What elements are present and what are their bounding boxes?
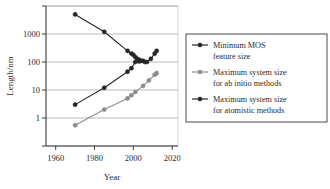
- data-point: [129, 66, 133, 70]
- legend-marker-dot: [198, 43, 203, 48]
- data-point: [147, 78, 151, 82]
- y-tick-label: 10: [32, 85, 41, 95]
- data-point: [141, 59, 145, 63]
- legend-marker-dot: [198, 97, 203, 102]
- data-point: [129, 93, 133, 97]
- data-point: [125, 70, 129, 74]
- data-point: [73, 123, 77, 127]
- data-point: [133, 60, 137, 64]
- x-tick-label: 2020: [164, 153, 181, 163]
- x-tick-label: 2000: [125, 153, 142, 163]
- x-axis: 1960198020002020: [46, 146, 181, 163]
- data-point: [102, 30, 106, 34]
- y-axis: 1101001000: [23, 6, 46, 146]
- data-point: [145, 60, 149, 64]
- x-tick-label: 1960: [47, 153, 64, 163]
- data-point: [133, 90, 137, 94]
- x-axis-title: Year: [104, 172, 121, 182]
- legend-label-line2: feature size: [213, 52, 251, 61]
- data-point: [125, 96, 129, 100]
- plot-frame: [46, 6, 178, 146]
- y-tick-label: 1: [36, 113, 40, 123]
- chart-canvas: 1101001000 1960198020002020 Length/nm Ye…: [0, 0, 330, 189]
- legend-marker-dot: [198, 70, 203, 75]
- data-series-layer: [73, 12, 159, 127]
- data-series: [73, 12, 147, 64]
- chart-figure: 1101001000 1960198020002020 Length/nm Ye…: [0, 0, 330, 189]
- y-axis-title: Length/nm: [5, 56, 15, 96]
- data-point: [155, 71, 159, 75]
- y-tick-label: 1000: [23, 29, 40, 39]
- data-point: [141, 84, 145, 88]
- data-point: [73, 12, 77, 16]
- legend: Minimum MOSfeature sizeMaximum system si…: [186, 34, 327, 122]
- legend-label-line2: for ab initio methods: [213, 79, 281, 88]
- legend-label-line1: Maximum system size: [213, 95, 287, 104]
- data-point: [102, 86, 106, 90]
- data-point: [125, 49, 129, 53]
- legend-label-line1: Minimum MOS: [213, 41, 266, 50]
- data-series: [73, 49, 159, 107]
- y-tick-label: 100: [27, 57, 40, 67]
- grid-lines: [46, 6, 178, 146]
- data-point: [73, 103, 77, 107]
- data-point: [102, 107, 106, 111]
- series-line: [75, 73, 157, 125]
- x-tick-label: 1980: [86, 153, 103, 163]
- legend-label-line2: for atomistic methods: [213, 106, 284, 115]
- data-point: [149, 57, 153, 61]
- data-point: [137, 59, 141, 63]
- data-point: [155, 49, 159, 53]
- legend-label-line1: Maximum system size: [213, 68, 287, 77]
